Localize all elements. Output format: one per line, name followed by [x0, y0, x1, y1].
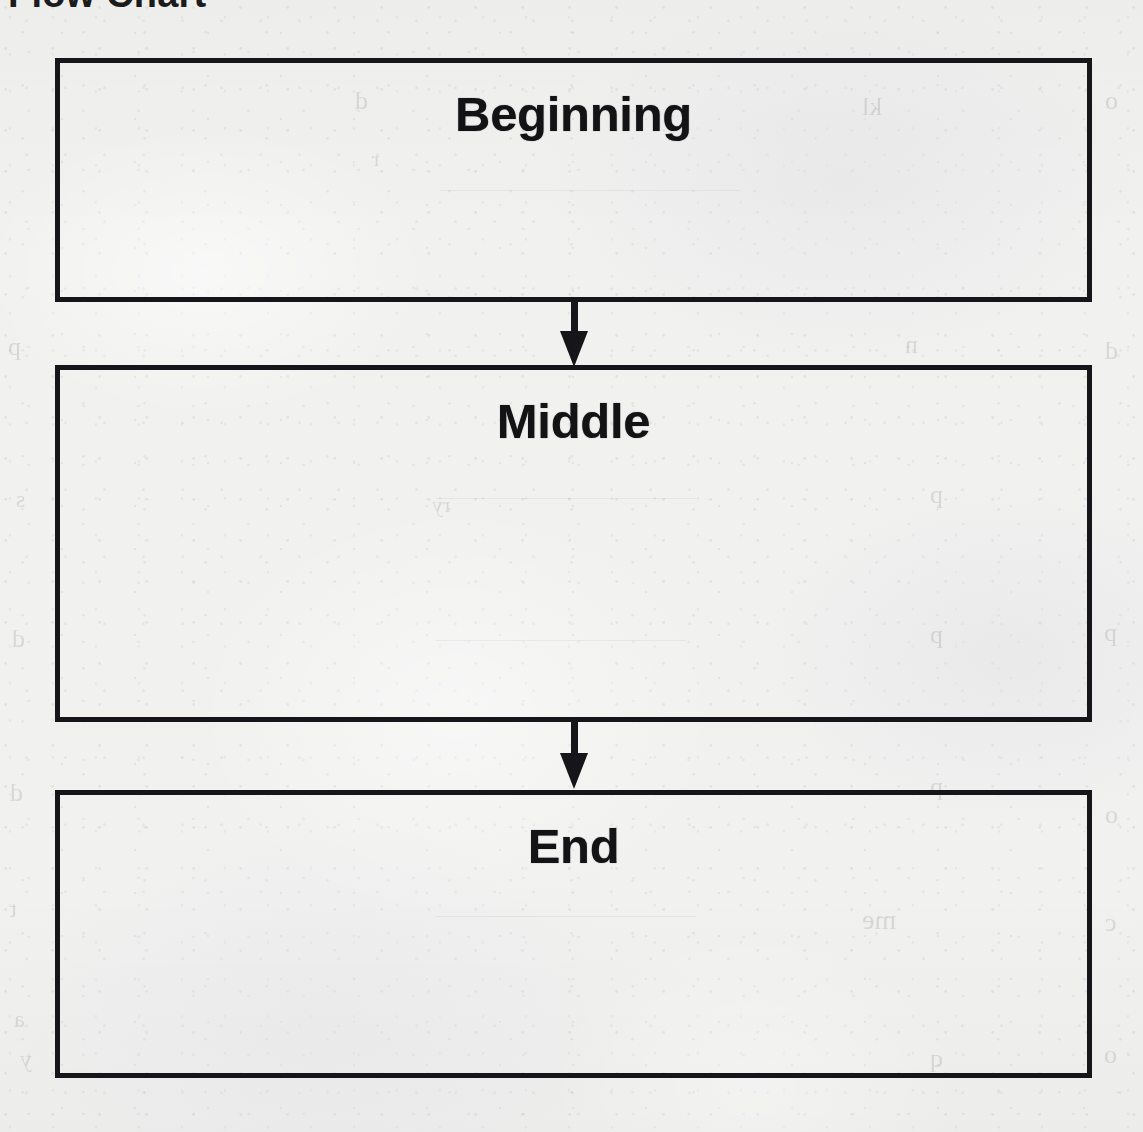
- arrow-beginning-to-middle-icon: [560, 300, 588, 367]
- arrow-middle-to-end-icon: [560, 720, 588, 792]
- scanned-worksheet-page: dklornpdpsrypdppdometcaqoy Flow Chart Be…: [0, 0, 1143, 1132]
- page-title: Flow Chart: [8, 0, 206, 16]
- flow-chart: Beginning Middle End: [0, 0, 1143, 1132]
- flow-box-end[interactable]: End: [55, 790, 1092, 1078]
- arrow-head: [560, 753, 588, 789]
- flow-box-middle-label: Middle: [60, 396, 1087, 447]
- arrow-stem: [571, 720, 578, 756]
- flow-box-beginning-label: Beginning: [60, 89, 1087, 140]
- flow-box-middle[interactable]: Middle: [55, 365, 1092, 722]
- flow-box-end-label: End: [60, 821, 1087, 872]
- flow-box-beginning[interactable]: Beginning: [55, 58, 1092, 302]
- arrow-head: [560, 331, 588, 367]
- arrow-stem: [571, 300, 578, 334]
